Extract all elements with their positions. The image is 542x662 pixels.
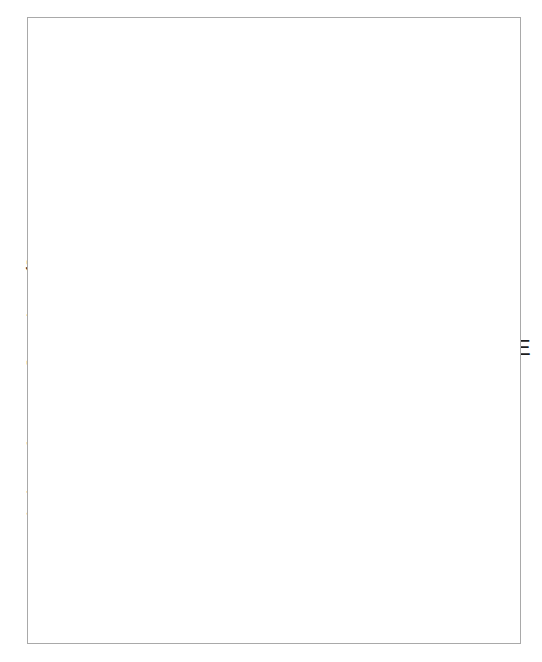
figure-frame [27, 17, 521, 644]
chart-root: 010203040506070 020406080100 LMESMESMEIM… [0, 0, 542, 662]
